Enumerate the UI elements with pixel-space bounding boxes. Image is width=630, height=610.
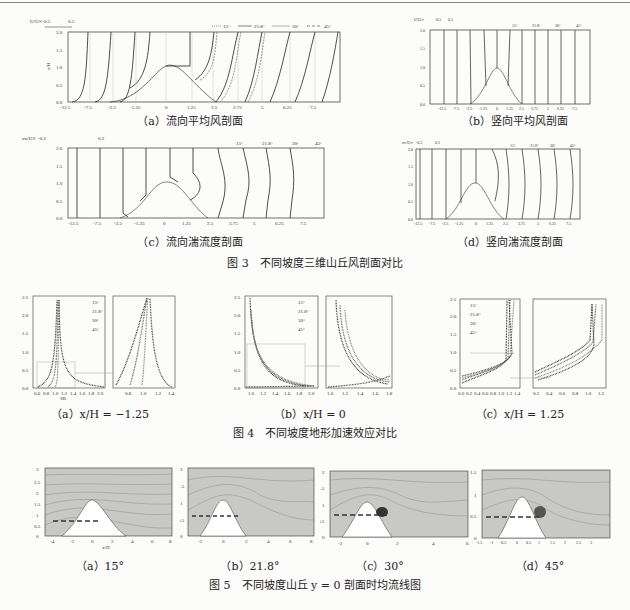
fig3d-plot: σv/U∞ -0.2 0.2 15°21.8° 30°45° 0.00.5 1.… — [400, 135, 630, 227]
fig4a-plot: 15°21.8° 30°45° 0.00.5 1.01.5 2.02.5 0.6… — [0, 280, 210, 400]
svg-text:15°: 15° — [510, 143, 516, 148]
svg-text:0.2: 0.2 — [435, 140, 440, 145]
fig3a-plot: U/U∞ -0.5 0.5 15° 21.8° 30° 45° 0.00.5 1… — [0, 0, 400, 110]
svg-text:0: 0 — [180, 534, 183, 539]
fig3b-legend: 15°21.8° 30°45° — [512, 23, 582, 28]
svg-text:0.5: 0.5 — [420, 83, 425, 88]
svg-text:-12.5: -12.5 — [438, 106, 446, 110]
svg-text:1.25: 1.25 — [182, 221, 191, 226]
svg-text:2.5: 2.5 — [34, 480, 41, 485]
fig3d-panel: σv/U∞ -0.2 0.2 15°21.8° 30°45° 0.00.5 1.… — [400, 135, 630, 245]
svg-text:2.5: 2.5 — [22, 295, 29, 300]
svg-text:-4: -4 — [50, 539, 55, 544]
svg-text:6.25: 6.25 — [557, 106, 564, 110]
svg-text:2.0: 2.0 — [22, 313, 29, 318]
svg-text:2.0: 2.0 — [450, 314, 457, 319]
svg-text:0.2: 0.2 — [98, 136, 105, 141]
svg-text:21.8°: 21.8° — [92, 309, 103, 314]
svg-text:2.5: 2.5 — [519, 106, 524, 110]
svg-text:4: 4 — [267, 539, 270, 544]
svg-text:7.5: 7.5 — [310, 105, 317, 110]
svg-text:3: 3 — [36, 467, 39, 472]
svg-text:-0.5: -0.5 — [500, 540, 506, 545]
svg-text:5: 5 — [253, 221, 256, 226]
svg-text:0: 0 — [496, 106, 498, 110]
svg-text:-2.5: -2.5 — [442, 221, 448, 226]
svg-text:8: 8 — [169, 539, 172, 544]
svg-text:0: 0 — [91, 539, 94, 544]
fig4-caption: 图 4 不同坡度地形加速效应对比 — [180, 424, 450, 440]
svg-text:z/H: z/H — [46, 62, 51, 70]
svg-text:1.2: 1.2 — [598, 391, 605, 396]
svg-text:5: 5 — [547, 106, 549, 110]
svg-text:2.5: 2.5 — [503, 221, 508, 226]
svg-text:1.4: 1.4 — [70, 391, 77, 396]
svg-text:3.75: 3.75 — [233, 105, 242, 110]
svg-text:0.5: 0.5 — [180, 518, 185, 523]
svg-text:2.0: 2.0 — [234, 313, 241, 318]
svg-text:1.0: 1.0 — [140, 391, 147, 396]
svg-text:1.5: 1.5 — [470, 470, 477, 475]
fig5b-plot: 00.5 11.5 2 -20 24 68 — [180, 440, 320, 555]
svg-text:0.0: 0.0 — [22, 386, 29, 391]
svg-text:1.2: 1.2 — [342, 391, 349, 396]
svg-text:2.0: 2.0 — [56, 146, 63, 151]
svg-text:7.5: 7.5 — [300, 221, 307, 226]
svg-text:5: 5 — [537, 221, 539, 226]
svg-text:0.8: 0.8 — [43, 391, 50, 396]
fig4c-legend: 15°21.8° 30°45° — [470, 303, 481, 335]
svg-text:-12.5: -12.5 — [60, 105, 71, 110]
svg-text:2.5: 2.5 — [450, 297, 457, 302]
svg-text:-12.5: -12.5 — [68, 221, 79, 226]
svg-text:2.5: 2.5 — [211, 105, 218, 110]
svg-text:0.5: 0.5 — [408, 199, 413, 204]
svg-text:2: 2 — [111, 539, 114, 544]
svg-text:21.8°: 21.8° — [262, 141, 273, 146]
svg-text:1.2: 1.2 — [506, 391, 513, 396]
svg-text:x/H: x/H — [102, 545, 110, 550]
svg-text:1.0: 1.0 — [327, 391, 334, 396]
fig5c-panel: 00.5 11.5 2 -20 24 6 （c）30° — [320, 440, 480, 580]
svg-text:1.5: 1.5 — [320, 486, 325, 491]
svg-text:-0.5: -0.5 — [435, 17, 441, 22]
svg-text:0.6: 0.6 — [34, 391, 41, 396]
svg-text:2.0: 2.0 — [308, 391, 315, 396]
svg-text:0.5: 0.5 — [34, 524, 41, 529]
svg-text:-2: -2 — [338, 541, 343, 546]
svg-text:1.5: 1.5 — [550, 540, 555, 545]
fig3a-panel: U/U∞ -0.5 0.5 15° 21.8° 30° 45° 0.00.5 1… — [0, 0, 400, 130]
svg-text:1.0: 1.0 — [56, 181, 63, 186]
svg-text:2: 2 — [322, 470, 325, 475]
svg-text:15°: 15° — [298, 300, 305, 305]
svg-text:1.0: 1.0 — [498, 391, 505, 396]
svg-text:1.0: 1.0 — [234, 350, 241, 355]
svg-text:7.5: 7.5 — [566, 221, 571, 226]
svg-text:0.6: 0.6 — [559, 391, 566, 396]
svg-text:3.75: 3.75 — [518, 221, 525, 226]
svg-text:1.5: 1.5 — [56, 48, 63, 53]
fig5a-caption: （a）15° — [60, 557, 140, 573]
fig5b-caption: （b）21.8° — [210, 557, 290, 573]
svg-text:21.8°: 21.8° — [298, 309, 309, 314]
fig4c-plot: 15°21.8° 30°45° 0.00.5 1.01.5 2.02.5 0.0… — [410, 280, 630, 400]
svg-text:0.2: 0.2 — [466, 391, 473, 396]
fig3a-yticks: 0.00.5 1.01.5 2.0 — [56, 30, 63, 105]
svg-text:6: 6 — [289, 539, 292, 544]
fig5b-panel: 00.5 11.5 2 -20 24 68 （b）21.8° — [180, 440, 320, 580]
svg-text:1.5: 1.5 — [450, 332, 457, 337]
svg-text:5: 5 — [261, 105, 264, 110]
fig3c-panel: σu/U∞ -0.2 0.2 15°21.8° 30°45° 0.00.5 1.… — [0, 135, 400, 245]
svg-text:0: 0 — [516, 540, 518, 545]
svg-text:1.6: 1.6 — [372, 391, 379, 396]
svg-text:0.4: 0.4 — [474, 391, 481, 396]
svg-text:1.0: 1.0 — [56, 65, 63, 70]
svg-text:0.2: 0.2 — [533, 391, 540, 396]
svg-text:1.0: 1.0 — [248, 391, 255, 396]
svg-text:1.5: 1.5 — [420, 46, 425, 51]
svg-text:-2.5: -2.5 — [108, 105, 116, 110]
svg-text:0.5: 0.5 — [68, 19, 75, 24]
svg-text:2: 2 — [564, 540, 566, 545]
svg-text:15°: 15° — [470, 303, 477, 308]
svg-text:2.5: 2.5 — [576, 540, 581, 545]
svg-text:3: 3 — [590, 540, 592, 545]
